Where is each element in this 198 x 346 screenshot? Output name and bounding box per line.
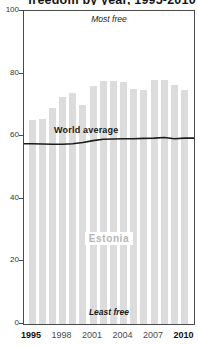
least-free-annotation: Least free xyxy=(24,307,194,317)
y-tick-label-0: 0 xyxy=(0,318,19,328)
plot-area: Most free Estonia World average Least fr… xyxy=(23,10,195,325)
world-average-line xyxy=(24,11,194,324)
x-tick-label-2001: 2001 xyxy=(76,329,108,341)
x-tick-label-2010: 2010 xyxy=(168,329,198,341)
y-tick-label-60: 60 xyxy=(0,130,19,140)
world-average-label: World average xyxy=(54,125,118,135)
y-tick-mark xyxy=(19,323,23,324)
clipped-chart-title: freedom by year, 1995-2010 xyxy=(28,0,198,5)
x-tick-label-2004: 2004 xyxy=(107,329,139,341)
y-tick-label-20: 20 xyxy=(0,255,19,265)
y-tick-label-80: 80 xyxy=(0,68,19,78)
chart-title-fragment: freedom by year, 1995-2010 xyxy=(28,0,196,5)
x-tick-label-1998: 1998 xyxy=(46,329,78,341)
y-tick-mark xyxy=(19,260,23,261)
economic-freedom-chart: freedom by year, 1995-2010 Most free Est… xyxy=(0,0,198,346)
x-tick-label-2007: 2007 xyxy=(137,329,169,341)
y-tick-label-40: 40 xyxy=(0,193,19,203)
y-tick-mark xyxy=(19,73,23,74)
y-tick-mark xyxy=(19,198,23,199)
x-tick-label-1995: 1995 xyxy=(15,329,47,341)
y-tick-mark xyxy=(19,10,23,11)
y-tick-mark xyxy=(19,135,23,136)
y-tick-label-100: 100 xyxy=(0,5,19,15)
